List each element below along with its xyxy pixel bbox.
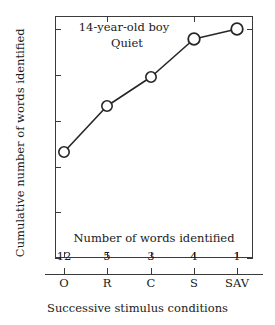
data-point-marker (146, 72, 156, 82)
y-tick-25 (55, 29, 61, 30)
chart-data-layer (55, 16, 253, 258)
word-count-sav: 1 (207, 251, 267, 263)
x-axis-title: Successive stimulus conditions (0, 303, 275, 315)
x-tick-outer-r (107, 268, 108, 274)
data-point-marker (231, 23, 243, 35)
x-tick-outer-s (194, 268, 195, 274)
data-point-marker (188, 33, 200, 45)
x-tick-top-s (194, 16, 195, 22)
data-point-marker (59, 147, 69, 157)
y-tick-20 (55, 75, 61, 76)
chart-figure: 25 20 15 10 5 0 Number of words identifi… (0, 0, 275, 325)
y-tick-right-25 (247, 29, 253, 30)
y-tick-10 (55, 167, 61, 168)
annotation-line-1: 14-year-old boy (62, 20, 186, 36)
y-tick-5 (55, 212, 61, 213)
word-count-heading: Number of words identified (55, 233, 253, 245)
x-tick-outer-sav (237, 268, 238, 274)
y-tick-15 (55, 121, 61, 122)
annotation-line-2: Quiet (62, 36, 186, 52)
x-axis-outer-line (45, 274, 263, 275)
x-tick-label-sav: SAV (207, 278, 267, 290)
plot-annotation: 14-year-old boy Quiet (62, 20, 186, 51)
x-tick-outer-c (151, 268, 152, 274)
x-tick-outer-o (64, 268, 65, 274)
data-point-marker (102, 101, 112, 111)
y-axis-title: Cumulative number of words identified (15, 20, 27, 266)
